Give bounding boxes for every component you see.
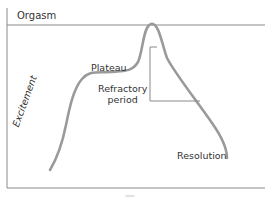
refractory-bracket bbox=[150, 47, 200, 101]
resolution-label: Resolution bbox=[177, 151, 227, 161]
refractory-label-line2: period bbox=[98, 95, 147, 106]
faint-mark bbox=[125, 195, 135, 197]
orgasm-label: Orgasm bbox=[17, 11, 56, 21]
plateau-label: Plateau bbox=[91, 63, 127, 73]
refractory-period-label: Refractory period bbox=[98, 84, 147, 106]
